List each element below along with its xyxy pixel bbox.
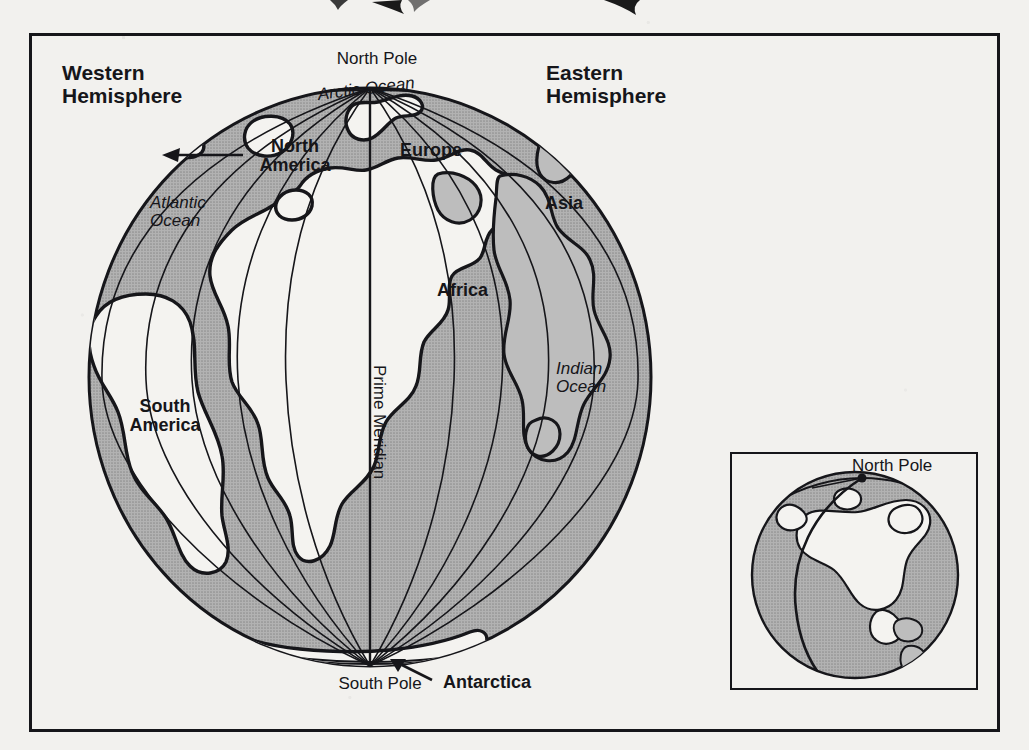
label-inset-north-pole: North Pole <box>852 457 932 475</box>
label-asia: Asia <box>545 194 583 213</box>
inset-frame <box>730 452 978 690</box>
label-africa: Africa <box>437 281 488 300</box>
label-prime-meridian: Prime Meridian <box>370 365 388 479</box>
label-europe: Europe <box>400 141 462 160</box>
iberia-peninsula <box>276 190 313 220</box>
siberia <box>537 133 580 183</box>
label-north-pole: North Pole <box>337 50 417 68</box>
diagram-canvas: WesternHemisphere EasternHemisphere Nort… <box>0 0 1029 750</box>
label-indian-ocean: IndianOcean <box>556 360 606 397</box>
arctic-islands-a <box>206 110 231 129</box>
label-eastern-hemisphere: EasternHemisphere <box>546 62 666 107</box>
label-western-hemisphere: WesternHemisphere <box>62 62 182 107</box>
arctic-islands-c <box>229 95 245 108</box>
label-south-america: SouthAmerica <box>129 397 200 436</box>
label-atlantic-ocean: AtlanticOcean <box>150 194 206 231</box>
southeast-asia <box>526 418 561 456</box>
label-south-pole: South Pole <box>338 675 421 693</box>
label-north-america: NorthAmerica <box>259 137 330 176</box>
label-antarctica: Antarctica <box>443 673 531 692</box>
